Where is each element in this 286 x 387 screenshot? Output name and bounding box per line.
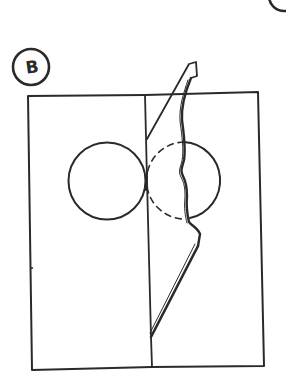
right-circle-visible-arc bbox=[184, 142, 220, 218]
right-circle-hidden-arc bbox=[146, 142, 186, 219]
stray-mark bbox=[31, 267, 33, 269]
corner-label-circle bbox=[269, 0, 286, 11]
cut-flap bbox=[146, 62, 200, 337]
panel-label-text: B bbox=[24, 56, 40, 78]
diagram-canvas: B bbox=[0, 0, 286, 387]
left-circle bbox=[69, 143, 146, 220]
panel-label: B bbox=[13, 49, 49, 85]
